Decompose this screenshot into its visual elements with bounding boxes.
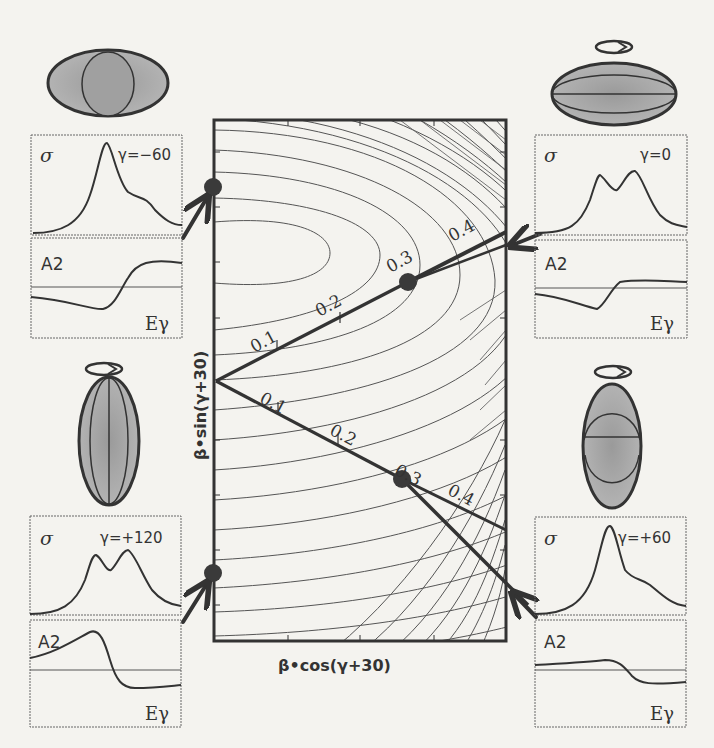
nucleus-shape-prolate-vertical (79, 363, 139, 505)
upper-deformation-path (216, 232, 506, 381)
y-axis-label: β•sin(γ+30) (191, 351, 210, 460)
left-marker-lower (204, 564, 222, 582)
nucleus-shape-oblate-vertical (583, 366, 641, 508)
panel-top-left: σ γ=−60 A2 Eγ (31, 50, 182, 338)
nucleus-shape-prolate-horizontal (552, 41, 676, 125)
gamma-label: γ=+120 (100, 529, 163, 547)
sigma-curve (30, 550, 181, 614)
energy-label: Eγ (650, 313, 674, 334)
a2-curve (535, 280, 687, 309)
upper-path-marker (399, 273, 417, 291)
nucleus-shape-oblate-horizontal (48, 50, 168, 116)
x-axis-label: β•cos(γ+30) (278, 656, 391, 675)
energy-label: Eγ (145, 313, 169, 334)
lower-label-0.1: 0.1 (257, 388, 290, 418)
a2-curve (535, 660, 686, 684)
sigma-curve (535, 171, 687, 233)
panel-bottom-left: σ γ=+120 A2 Eγ (30, 363, 181, 727)
sigma-label: σ (544, 527, 558, 549)
energy-label: Eγ (650, 703, 674, 724)
gamma-label: γ=−60 (118, 146, 171, 164)
a2-label: A2 (545, 254, 567, 274)
a2-label: A2 (544, 632, 566, 652)
sigma-label: σ (40, 527, 54, 549)
sigma-label: σ (544, 144, 558, 166)
figure-canvas: 0.1 0.2 0.3 0.4 0.1 0.2 0.3 0.4 β•cos(γ+… (0, 0, 714, 748)
connector-arrows (183, 196, 540, 622)
panel-bottom-right: σ γ=+60 A2 Eγ (535, 366, 686, 727)
upper-label-0.4: 0.4 (445, 215, 478, 245)
gamma-label: γ=+60 (618, 529, 671, 547)
energy-label: Eγ (145, 703, 169, 724)
sigma-label: σ (40, 144, 54, 166)
upper-label-0.3: 0.3 (383, 246, 416, 276)
left-marker-upper (204, 178, 222, 196)
a2-label: A2 (41, 254, 63, 274)
gamma-label: γ=0 (640, 146, 671, 164)
panel-top-right: σ γ=0 A2 Eγ (535, 41, 687, 338)
